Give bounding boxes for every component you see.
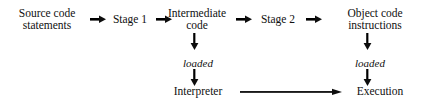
node-object-code-instructions: Object code instructions: [330, 8, 420, 31]
node-interpreter-line1: Interpreter: [160, 86, 236, 98]
arrow-right-interpreter-to-execution-icon: [240, 88, 342, 96]
node-stage-2: Stage 2: [252, 14, 304, 26]
node-execution-line1: Execution: [344, 86, 416, 98]
arrow-right-intermediate-to-stage2-icon: [236, 15, 252, 24]
edge-label-loaded-right: loaded: [339, 58, 401, 69]
pipeline-diagram: Source code statements Stage 1 Intermedi…: [0, 0, 423, 102]
node-interpreter: Interpreter: [160, 86, 236, 98]
arrow-right-source-to-stage1-icon: [90, 15, 106, 24]
node-execution: Execution: [344, 86, 416, 98]
node-object-line2: instructions: [330, 20, 420, 32]
node-source-line1: Source code: [4, 8, 90, 20]
arrow-down-loaded-to-interpreter-icon: [190, 69, 199, 86]
arrow-right-stage1-to-intermediate-icon: [156, 15, 172, 24]
node-object-line1: Object code: [330, 8, 420, 20]
node-source-code-statements: Source code statements: [4, 8, 90, 31]
node-source-line2: statements: [4, 20, 90, 32]
arrow-down-intermediate-to-loaded-icon: [190, 33, 199, 50]
node-stage2-line1: Stage 2: [252, 14, 304, 26]
node-stage-1: Stage 1: [104, 14, 156, 26]
arrow-down-loaded-to-execution-icon: [363, 69, 372, 86]
node-stage1-line1: Stage 1: [104, 14, 156, 26]
arrow-down-object-to-loaded-icon: [363, 33, 372, 50]
arrow-right-stage2-to-object-icon: [306, 15, 322, 24]
edge-label-loaded-left: loaded: [167, 58, 229, 69]
